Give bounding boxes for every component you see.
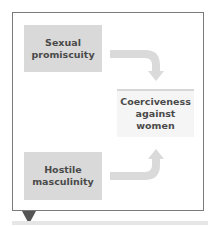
node-sexual-promiscuity-label: Sexual promiscuity [31,37,94,61]
node-sexual-promiscuity: Sexual promiscuity [24,25,102,72]
node-coerciveness-label: Coerciveness against women [120,96,191,132]
node-hostile-masculinity-label: Hostile masculinity [32,164,94,188]
node-hostile-masculinity: Hostile masculinity [24,152,102,200]
bottom-band [12,221,208,225]
node-coerciveness-against-women: Coerciveness against women [117,89,194,137]
